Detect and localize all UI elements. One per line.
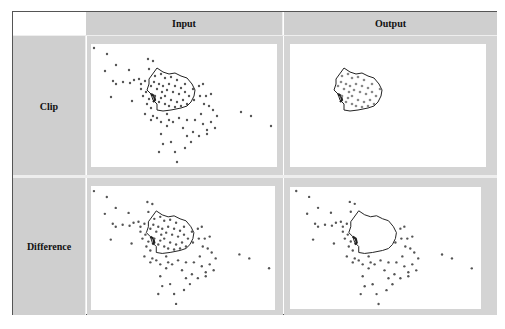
data-point [377,303,379,305]
data-point [167,226,169,228]
scatter-map [290,44,486,167]
data-point [159,239,161,241]
data-point [152,60,154,62]
data-point [209,235,211,237]
data-point [306,213,308,215]
data-point [144,80,146,82]
data-point [185,261,187,263]
data-point [240,111,242,113]
data-point [193,99,195,101]
data-point [167,261,169,263]
data-point [152,224,154,226]
data-point [158,101,160,103]
data-point [187,237,189,239]
data-point [178,93,180,95]
data-point [147,240,149,242]
data-point [198,237,200,239]
data-point [192,131,194,133]
data-point [112,80,114,82]
data-point [191,273,193,275]
data-point [367,105,370,108]
data-point [148,98,150,100]
data-point [93,190,95,192]
data-point [411,235,413,237]
data-point [148,68,150,70]
data-point [173,228,175,230]
data-point [210,121,212,123]
data-point [115,226,117,228]
data-point [190,141,192,143]
boundary-polygon [349,211,397,254]
data-point [387,277,389,279]
data-point [379,88,382,91]
data-point [176,79,178,81]
data-point [186,119,188,121]
data-point [162,85,164,87]
data-point [345,83,348,86]
data-point [163,245,165,247]
data-point [157,293,159,295]
data-point [346,255,348,257]
data-point [192,88,194,90]
data-point [202,83,204,85]
data-point [406,237,408,239]
data-point [160,133,162,135]
data-point [399,227,401,229]
data-point [144,113,146,115]
data-point [371,83,374,86]
data-point [183,289,185,291]
data-point [413,251,415,253]
data-point [163,237,165,239]
data-point [112,223,114,225]
data-point [128,225,130,227]
data-point [205,271,207,273]
data-point [214,127,216,129]
data-point [407,271,409,273]
data-point [268,267,270,269]
data-point [160,73,162,75]
data-point [149,261,151,263]
data-point [349,201,351,203]
data-point [170,99,172,101]
data-point [130,242,132,244]
data-point [139,230,141,232]
data-point [317,207,319,209]
data-point [347,73,350,76]
data-point [371,91,374,94]
data-point [185,245,187,247]
data-point [160,97,162,99]
data-point [375,95,378,98]
data-point [152,115,154,117]
row-header-clip: Clip [13,36,86,176]
data-point [191,230,193,232]
data-point [188,95,190,97]
data-point [248,257,250,259]
data-point [158,83,160,85]
column-header-output: Output [284,12,497,35]
data-point [146,201,148,203]
data-point [133,79,135,81]
data-point [347,97,350,100]
data-point [106,53,108,55]
data-point [168,119,170,121]
data-point [205,275,207,277]
data-point [169,241,171,243]
data-point [158,151,160,153]
data-point [363,101,366,104]
data-point [151,203,153,205]
data-point [198,85,200,87]
data-point [341,95,344,98]
data-point [200,113,202,115]
data-point [212,109,214,111]
data-point [197,228,199,230]
data-point [270,125,272,127]
data-point [250,115,252,117]
cell-clip-input [87,36,283,176]
data-point [131,100,133,102]
data-point [167,247,169,249]
data-point [357,99,360,102]
data-point [385,289,387,291]
data-point [312,238,314,240]
data-point [110,96,112,98]
data-point [150,119,152,121]
